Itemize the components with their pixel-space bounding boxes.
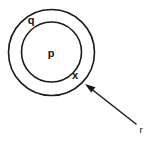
label-p: p	[48, 47, 55, 59]
label-q: q	[28, 14, 35, 26]
concentric-circles-diagram: q p x r	[0, 0, 155, 145]
label-r: r	[139, 124, 142, 135]
diagram-canvas: q p x r	[0, 0, 155, 145]
label-x: x	[72, 69, 79, 81]
pointer-arrow-line	[90, 88, 137, 125]
